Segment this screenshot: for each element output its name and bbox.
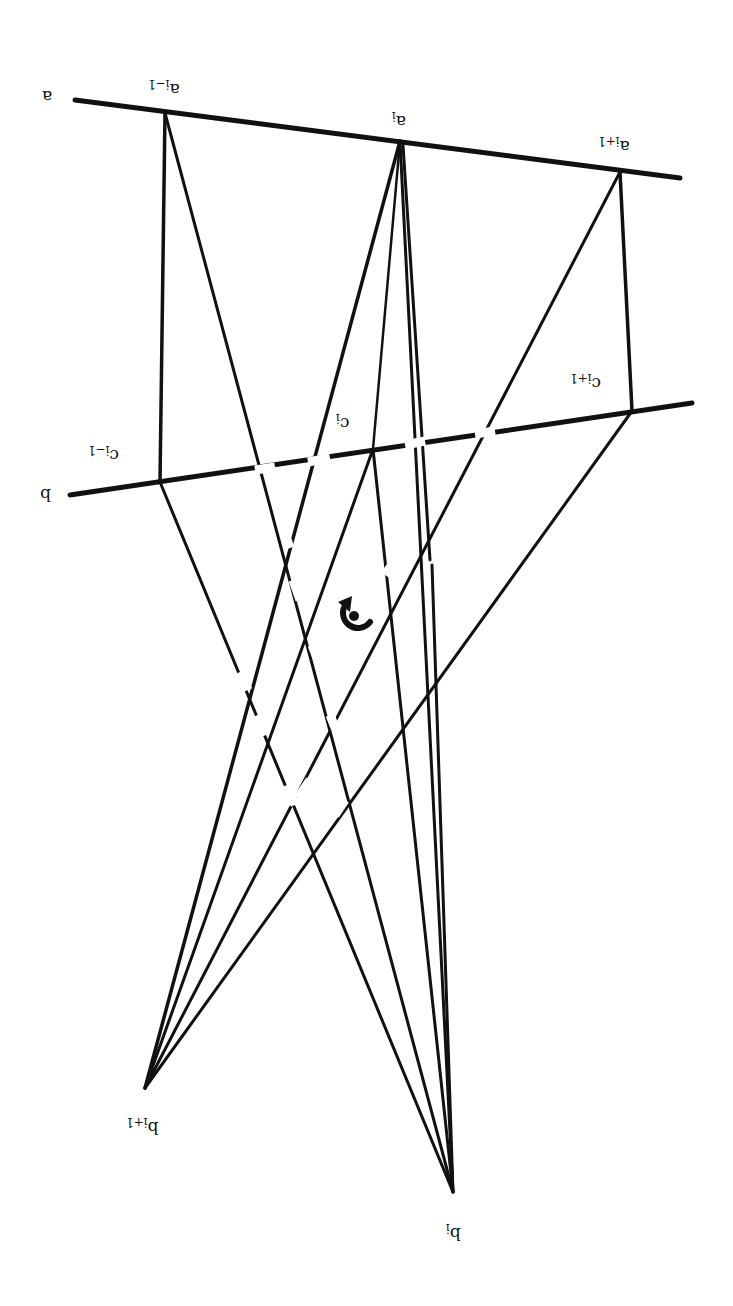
label-c-next: ci+1 <box>570 372 601 392</box>
segment-a-prev-b-cur <box>165 113 453 1192</box>
gap <box>375 735 385 752</box>
diagram-canvas <box>0 0 733 1306</box>
label-a-next: ai+1 <box>598 135 630 155</box>
label-a-cur: ai <box>392 110 406 130</box>
gap <box>287 785 295 805</box>
label-b-text: b <box>40 485 51 505</box>
label-b-cur-sub: i <box>446 1221 450 1235</box>
label-c-next-sub: i+1 <box>570 371 592 385</box>
segment-a-cur-b-next <box>145 141 400 1088</box>
label-a-text: a <box>42 87 52 107</box>
label-a-prev: ai−1 <box>148 78 180 98</box>
gap <box>265 690 272 708</box>
label-a-cur-text: a <box>396 112 406 132</box>
label-a: a <box>42 88 52 105</box>
label-c-next-text: c <box>592 374 602 394</box>
label-c-prev-sub: i−1 <box>88 443 110 457</box>
gap <box>475 431 495 434</box>
label-c-cur: ci <box>336 412 349 432</box>
label-a-next-text: a <box>620 137 630 157</box>
label-b-cur-text: b <box>450 1224 461 1244</box>
rotation-arrow-icon <box>338 596 370 628</box>
label-c-cur-text: c <box>340 414 350 434</box>
label-b-next-sub: i+1 <box>126 1115 148 1129</box>
gap <box>410 690 420 705</box>
label-b-cur: bi <box>446 1222 461 1242</box>
gap <box>308 458 330 462</box>
gap <box>258 715 266 735</box>
label-c-cur-sub: i <box>336 411 340 425</box>
label-b-next: bi+1 <box>126 1116 158 1136</box>
gap <box>312 645 320 665</box>
label-c-prev-text: c <box>110 446 120 466</box>
label-a-cur-sub: i <box>392 109 396 123</box>
label-a-prev-sub: i−1 <box>148 77 170 91</box>
label-c-prev: ci−1 <box>88 444 119 464</box>
segment-a-cur-b-cur-1 <box>400 141 453 1192</box>
gap <box>255 467 275 470</box>
gap <box>283 528 290 548</box>
gap <box>240 672 248 690</box>
line-b <box>70 403 692 495</box>
label-b: b <box>40 486 51 503</box>
gap <box>298 780 310 798</box>
label-a-prev-text: a <box>170 80 180 100</box>
label-b-next-text: b <box>148 1118 159 1138</box>
gap <box>405 441 425 445</box>
segment-c-next-b-next <box>145 411 632 1088</box>
segment-c-prev-b-cur <box>160 482 453 1192</box>
segment-a-prev-c-prev <box>160 113 165 482</box>
segment-a-next-c-next <box>620 172 632 411</box>
label-a-next-sub: i+1 <box>598 134 620 148</box>
